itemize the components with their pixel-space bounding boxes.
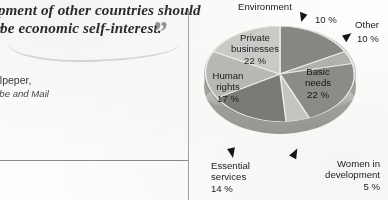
- page-root: opment of other countries should be econ…: [0, 0, 388, 200]
- callout-value-environment: 10 %: [315, 14, 337, 25]
- horizontal-divider: [0, 160, 188, 161]
- decorative-swoosh: [8, 34, 180, 62]
- callout-label-other: Other: [355, 19, 379, 30]
- pull-quote-line-1: opment of other countries should: [0, 1, 201, 19]
- pie-label-basic-needs: Basic needs 22 %: [292, 66, 344, 100]
- attribution-name: ulpeper,: [0, 74, 194, 86]
- attribution: ulpeper, obe and Mail: [0, 74, 194, 99]
- pie-label-human-rights: Human rights 17 %: [200, 70, 256, 104]
- vertical-divider: [188, 9, 189, 200]
- pointer-arrow-women-in-development-icon: [289, 147, 301, 160]
- callout-label-environment: Environment: [238, 1, 292, 12]
- callout-value-other: 10 %: [357, 33, 379, 44]
- pointer-arrow-essential-services-icon: [227, 147, 237, 158]
- pie-label-private-businesses: Private businesses 22 %: [221, 32, 289, 66]
- callout-label-women-in-development: Women in development 5 %: [302, 158, 380, 192]
- pie-chart: Private businesses 22 % Human rights 17 …: [190, 0, 388, 200]
- callout-label-essential-services: Essential services 14 %: [211, 160, 250, 194]
- attribution-source: obe and Mail: [0, 88, 194, 99]
- pie-graphic: Private businesses 22 % Human rights 17 …: [204, 18, 356, 140]
